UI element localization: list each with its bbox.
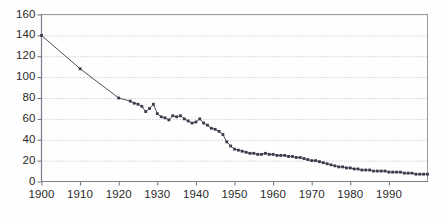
- y-axis-tick-label: 160: [16, 8, 36, 20]
- line-chart-canvas: [0, 0, 444, 219]
- x-axis-tick-label: 1970: [292, 188, 332, 200]
- x-axis-tick-label: 1920: [99, 188, 139, 200]
- x-axis-tick-label: 1910: [60, 188, 100, 200]
- y-axis-tick-label: 140: [16, 28, 36, 40]
- y-axis-tick-label: 0: [29, 175, 36, 187]
- x-axis-tick-label: 1990: [369, 188, 409, 200]
- y-axis-tick-label: 20: [23, 154, 36, 166]
- x-axis-tick-label: 1900: [22, 188, 62, 200]
- x-axis-tick-label: 1960: [253, 188, 293, 200]
- x-axis-tick-label: 1950: [215, 188, 255, 200]
- x-tick-marks-group: [42, 182, 389, 186]
- x-axis-tick-label: 1980: [330, 188, 370, 200]
- y-axis-tick-label: 40: [23, 133, 36, 145]
- chart-page: 020406080100120140160 190019101920193019…: [0, 0, 444, 219]
- y-axis-tick-label: 80: [23, 91, 36, 103]
- y-axis-tick-label: 100: [16, 70, 36, 82]
- x-axis-tick-label: 1940: [176, 188, 216, 200]
- y-axis-tick-label: 120: [16, 49, 36, 61]
- y-axis-tick-label: 60: [23, 112, 36, 124]
- data-series-markers: [40, 34, 429, 176]
- data-series-line: [42, 35, 428, 174]
- x-axis-tick-label: 1930: [137, 188, 177, 200]
- gridlines-group: [42, 15, 428, 161]
